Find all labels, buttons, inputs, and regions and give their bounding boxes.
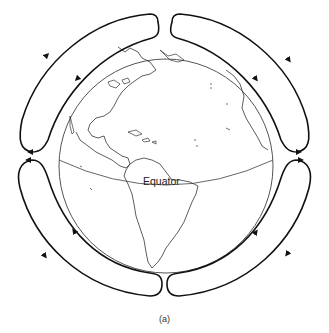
southwest-cell bbox=[19, 160, 163, 296]
arrow-icon bbox=[253, 232, 256, 236]
arrow-icon bbox=[42, 252, 45, 256]
atlantic-islands bbox=[194, 84, 230, 146]
globe-outline bbox=[59, 59, 273, 273]
equator-label: Equator bbox=[143, 175, 180, 187]
circulation-diagram: Equator bbox=[0, 0, 329, 333]
arrow-icon bbox=[44, 55, 47, 58]
figure-caption: (a) bbox=[0, 314, 329, 324]
arrow-icon bbox=[253, 75, 256, 79]
circulation-cells bbox=[19, 14, 311, 296]
globe: Equator bbox=[59, 47, 273, 273]
southeast-cell bbox=[167, 160, 311, 296]
north-america-coast bbox=[76, 47, 156, 168]
great-lakes bbox=[108, 78, 130, 88]
arrow-icon bbox=[77, 76, 80, 79]
arrow-icon bbox=[287, 250, 290, 254]
baja-california bbox=[70, 116, 74, 134]
caribbean-islands bbox=[128, 130, 156, 144]
arrow-icon bbox=[286, 56, 289, 60]
